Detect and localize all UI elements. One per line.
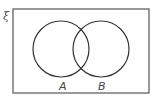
venn-diagram: ξ A B [0, 0, 154, 98]
set-b-circle [73, 21, 129, 77]
universal-set-label: ξ [3, 10, 10, 23]
set-b-label: B [98, 80, 106, 93]
set-a-label: A [58, 80, 67, 93]
